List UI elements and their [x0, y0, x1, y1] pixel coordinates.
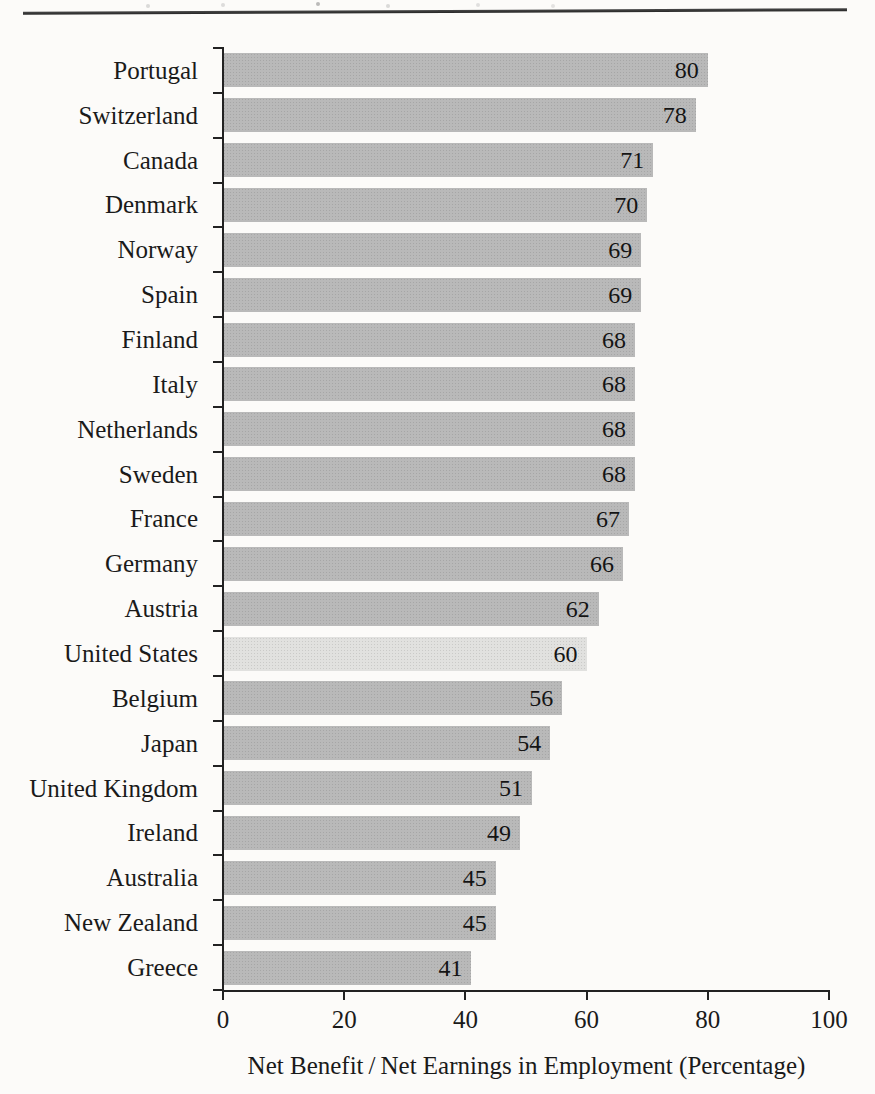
scanned-page: Portugal80Switzerland78Canada71Denmark70…	[0, 0, 875, 1094]
x-axis-tick	[222, 990, 224, 1000]
x-axis-tick-label: 20	[309, 1006, 379, 1034]
bar-value-label: 69	[608, 238, 632, 262]
bar-value-label: 51	[499, 776, 523, 800]
bar-austria: 62	[223, 592, 599, 626]
category-label: Switzerland	[0, 93, 198, 138]
category-label: Spain	[0, 272, 198, 317]
bar-value-label: 45	[463, 911, 487, 935]
category-label: Italy	[0, 362, 198, 407]
bar-value-label: 78	[663, 103, 687, 127]
category-label: Germany	[0, 541, 198, 586]
bar-greece: 41	[223, 951, 471, 985]
bar-canada: 71	[223, 143, 653, 177]
category-label: Austria	[0, 586, 198, 631]
category-label: United States	[0, 631, 198, 676]
category-label: Greece	[0, 945, 198, 990]
bar-value-label: 60	[554, 642, 578, 666]
bar-value-label: 67	[596, 507, 620, 531]
x-axis-tick-label: 80	[673, 1006, 743, 1034]
bar-portugal: 80	[223, 53, 708, 87]
category-label: Denmark	[0, 183, 198, 228]
bar-value-label: 68	[602, 372, 626, 396]
x-axis-line	[222, 990, 830, 992]
bar-switzerland: 78	[223, 98, 696, 132]
bar-denmark: 70	[223, 188, 647, 222]
bar-australia: 45	[223, 861, 496, 895]
category-label: Portugal	[0, 48, 198, 93]
bar-germany: 66	[223, 547, 623, 581]
bar-value-label: 49	[487, 821, 511, 845]
category-label: Finland	[0, 317, 198, 362]
bar-italy: 68	[223, 367, 635, 401]
category-label: Japan	[0, 721, 198, 766]
x-axis-tick	[707, 990, 709, 1000]
y-axis-line	[222, 47, 224, 991]
bar-japan: 54	[223, 726, 550, 760]
bar-spain: 69	[223, 278, 641, 312]
category-label: Sweden	[0, 452, 198, 497]
category-label: United Kingdom	[0, 766, 198, 811]
x-axis-tick-label: 0	[188, 1006, 258, 1034]
bar-value-label: 69	[608, 283, 632, 307]
bar-netherlands: 68	[223, 412, 635, 446]
category-label: Norway	[0, 227, 198, 272]
category-label: Australia	[0, 855, 198, 900]
bar-value-label: 70	[614, 193, 638, 217]
bar-norway: 69	[223, 233, 641, 267]
bar-value-label: 68	[602, 417, 626, 441]
category-label: Ireland	[0, 811, 198, 856]
bar-value-label: 62	[566, 597, 590, 621]
bar-value-label: 71	[620, 148, 644, 172]
bar-united-states: 60	[223, 637, 587, 671]
bar-ireland: 49	[223, 816, 520, 850]
category-label: Netherlands	[0, 407, 198, 452]
x-axis-tick	[828, 990, 830, 1000]
bar-value-label: 68	[602, 462, 626, 486]
category-label: France	[0, 497, 198, 542]
bar-value-label: 54	[517, 731, 541, 755]
x-axis-tick-label: 40	[430, 1006, 500, 1034]
bar-france: 67	[223, 502, 629, 536]
x-axis-tick	[586, 990, 588, 1000]
x-axis-tick	[464, 990, 466, 1000]
x-axis-tick-label: 100	[794, 1006, 864, 1034]
x-axis-tick	[343, 990, 345, 1000]
bar-value-label: 41	[438, 956, 462, 980]
bar-finland: 68	[223, 323, 635, 357]
bar-sweden: 68	[223, 457, 635, 491]
bar-chart: Portugal80Switzerland78Canada71Denmark70…	[0, 0, 875, 1094]
bar-value-label: 68	[602, 328, 626, 352]
bar-new-zealand: 45	[223, 906, 496, 940]
bar-value-label: 66	[590, 552, 614, 576]
x-axis-title: Net Benefit / Net Earnings in Employment…	[223, 1052, 830, 1080]
x-axis-tick-label: 60	[552, 1006, 622, 1034]
category-label: Canada	[0, 138, 198, 183]
bar-value-label: 56	[529, 686, 553, 710]
category-label: New Zealand	[0, 900, 198, 945]
bar-united-kingdom: 51	[223, 771, 532, 805]
bar-value-label: 45	[463, 866, 487, 890]
bar-belgium: 56	[223, 681, 562, 715]
bar-value-label: 80	[675, 58, 699, 82]
category-label: Belgium	[0, 676, 198, 721]
